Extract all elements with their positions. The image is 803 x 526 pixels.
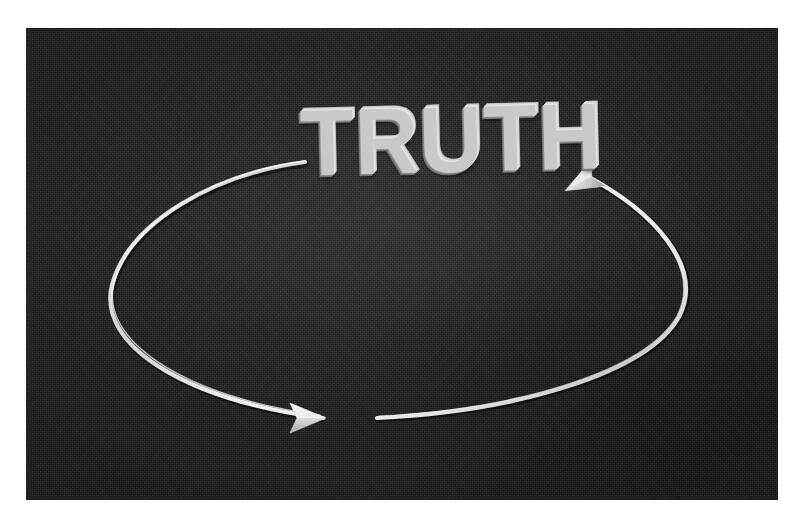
lighting-vignette (26, 28, 778, 500)
figure-root: TRUTH (0, 0, 803, 526)
film-grain-texture (26, 28, 778, 500)
photo-plate (26, 28, 778, 500)
